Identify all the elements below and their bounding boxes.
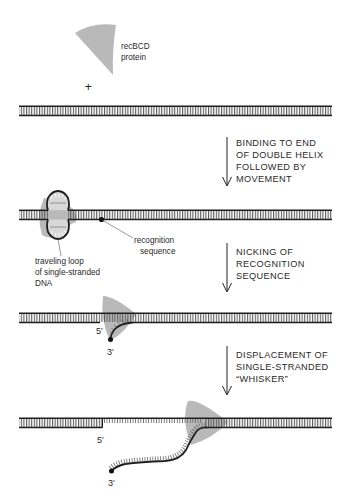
step2-label-line1: NICKING OF [236,247,293,257]
nick-3prime-label: 3′ [107,347,114,357]
dna-double-helix-4 [19,418,332,427]
step-arrow-1 [223,137,232,186]
step1-label-line1: BINDING TO END [236,138,316,148]
plus-sign: + [85,79,93,94]
recognition-label-line2: sequence [140,247,176,256]
step3-label-line2: SINGLE-STRANDED [236,362,329,372]
whisker-5prime-label: 5′ [97,435,104,445]
step1-label-line3: FOLLOWED BY [236,162,306,172]
whisker-3prime-label: 3′ [108,478,115,488]
recognition-sequence-dot [99,217,104,222]
step1-label-line4: MOVEMENT [236,174,292,184]
loop-label-line1: traveling loop [35,257,84,266]
protein-label-line1: recBCD [121,42,150,51]
recbcd-diagram: recBCD protein + BINDING TO END OF DOUBL… [0,0,351,501]
stage-3: 5′ 3′ [19,296,332,357]
recbcd-protein-shape [75,24,116,75]
step-arrow-2 [223,243,232,292]
loop-label-line2: of single-stranded [35,268,101,277]
nick-5prime-label: 5′ [96,326,103,336]
step1-label-line2: OF DOUBLE HELIX [236,150,323,160]
stage-1: recBCD protein + [19,24,332,115]
step-arrow-3 [223,346,232,395]
step2-label-line3: SEQUENCE [236,271,290,281]
dna-double-helix-3 [19,313,332,322]
step2-label-line2: RECOGNITION [236,259,305,269]
step3-label-line1: DISPLACEMENT OF [236,350,328,360]
stage-4: 5′ 3′ [19,401,332,488]
recognition-label-line1: recognition [134,236,175,245]
step3-label-line3: “WHISKER” [236,374,288,384]
loop-label-line3: DNA [35,279,53,288]
protein-label-line2: protein [121,53,146,62]
dna-double-helix-1 [19,106,332,115]
